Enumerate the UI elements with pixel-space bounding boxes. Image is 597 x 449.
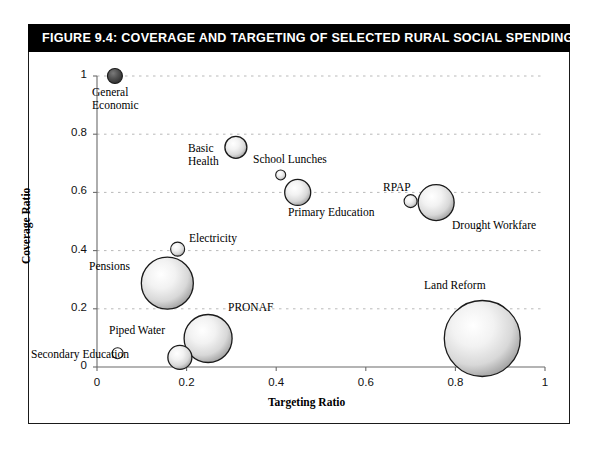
label-drought-workfare: Drought Workfare (452, 219, 536, 232)
y-tick-label: 1 (39, 68, 87, 80)
x-tick-label: 0.4 (251, 376, 301, 388)
x-tick-label: 0 (72, 376, 122, 388)
label-basic-health-line1: Basic (188, 142, 214, 155)
figure-title: FIGURE 9.4: COVERAGE AND TARGETING OF SE… (28, 31, 570, 45)
y-tick-label: 0.8 (39, 126, 87, 138)
label-general-economic-line1: General (92, 86, 128, 99)
y-axis-title: Coverage Ratio (20, 188, 32, 264)
label-primary-education: Primary Education (288, 206, 375, 219)
label-rpap: RPAP (383, 181, 411, 194)
label-school-lunches: School Lunches (253, 153, 327, 166)
label-secondary-education: Secondary Education (31, 348, 129, 361)
label-general-economic-line2: Economic (92, 99, 139, 112)
label-pronaf: PRONAF (228, 301, 273, 314)
x-axis-title: Targeting Ratio (268, 396, 345, 408)
y-tick-label: 0.2 (39, 301, 87, 313)
x-tick-label: 0.2 (162, 376, 212, 388)
x-tick-label: 1 (520, 376, 570, 388)
x-tick-label: 0.8 (430, 376, 480, 388)
y-tick-label: 0.6 (39, 184, 87, 196)
figure-title-bar: FIGURE 9.4: COVERAGE AND TARGETING OF SE… (28, 24, 570, 52)
label-basic-health-line2: Health (188, 155, 219, 168)
label-land-reform: Land Reform (424, 279, 486, 292)
x-tick-label: 0.6 (341, 376, 391, 388)
label-piped-water: Piped Water (109, 324, 165, 337)
label-electricity: Electricity (189, 232, 237, 245)
label-pensions: Pensions (89, 260, 130, 273)
y-tick-label: 0.4 (39, 243, 87, 255)
